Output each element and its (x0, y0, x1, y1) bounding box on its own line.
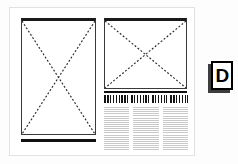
left-image-rule (21, 139, 96, 142)
text-column (104, 107, 129, 151)
page-panel[interactable] (9, 7, 195, 156)
right-image-placeholder[interactable] (104, 18, 187, 89)
text-column (133, 107, 158, 151)
headline-word (131, 95, 149, 103)
headline-word (170, 95, 188, 103)
headline-word (152, 95, 168, 103)
headline-word (104, 95, 128, 103)
layout-marker[interactable]: D (211, 61, 233, 90)
headline-block[interactable] (104, 95, 188, 103)
body-text-block[interactable] (104, 107, 188, 151)
marker-box[interactable]: D (211, 61, 233, 90)
marker-letter: D (215, 66, 228, 85)
text-column (163, 107, 188, 151)
x-cross-icon (105, 21, 186, 88)
left-image-placeholder[interactable] (21, 18, 96, 135)
x-cross-icon (22, 21, 95, 134)
right-image-rule (104, 91, 187, 93)
page-panel-content (13, 11, 191, 152)
wireframe-canvas: D (0, 0, 238, 164)
